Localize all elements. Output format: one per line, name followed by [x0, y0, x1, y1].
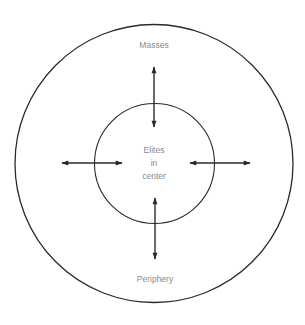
label-periphery: Periphery	[137, 274, 174, 284]
core-periphery-diagram: Masses Periphery Elites in center	[0, 0, 305, 325]
center-label-line-3: center	[142, 171, 166, 181]
center-label-line-2: in	[151, 158, 158, 168]
center-label-line-1: Elites	[144, 145, 165, 155]
label-masses: Masses	[139, 40, 168, 50]
